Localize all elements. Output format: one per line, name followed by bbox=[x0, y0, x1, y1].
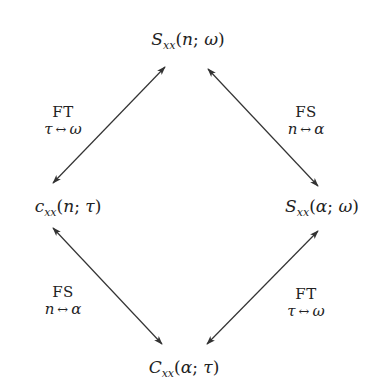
edge-top-right-from: n bbox=[288, 120, 298, 138]
double-arrow-icon: ↔ bbox=[296, 304, 313, 319]
edge-label-top-left: FT τ↔ω bbox=[44, 104, 81, 138]
node-left-symbol: c bbox=[35, 196, 45, 216]
diagram-canvas: Sxx(n; ω) cxx(n; τ) Sxx(α; ω) Cxx(α; τ) … bbox=[0, 0, 385, 392]
node-right-sep: ; bbox=[327, 196, 333, 216]
node-bottom-sep: ; bbox=[192, 357, 198, 377]
node-top-subscript: xx bbox=[163, 39, 175, 52]
node-top-arg2: ω bbox=[204, 29, 218, 49]
edge-bottom-right-to: ω bbox=[312, 302, 324, 320]
node-bottom-subscript: xx bbox=[162, 367, 174, 380]
node-top-symbol: S bbox=[151, 29, 163, 49]
node-left-arg1: n bbox=[63, 196, 74, 216]
edge-bottom-left-to: α bbox=[71, 300, 81, 318]
node-right: Sxx(α; ω) bbox=[285, 196, 359, 223]
node-top-sep: ; bbox=[193, 29, 199, 49]
edge-bottom-left-op: FS bbox=[45, 284, 82, 301]
node-left-arg2: τ bbox=[85, 196, 94, 216]
node-bottom-arg1: α bbox=[181, 357, 192, 377]
node-left-subscript: xx bbox=[44, 206, 56, 219]
edge-top-left-to: ω bbox=[69, 120, 81, 138]
node-right-arg1: α bbox=[316, 196, 327, 216]
edge-label-bottom-left: FS n↔α bbox=[45, 284, 82, 318]
node-right-arg2: ω bbox=[338, 196, 352, 216]
double-arrow-icon: ↔ bbox=[54, 302, 71, 317]
node-right-subscript: xx bbox=[297, 206, 309, 219]
edge-top-left-op: FT bbox=[44, 104, 81, 121]
node-top-arg1: n bbox=[182, 29, 193, 49]
double-arrow-icon: ↔ bbox=[297, 122, 314, 137]
node-top: Sxx(n; ω) bbox=[151, 29, 224, 56]
double-arrow-icon: ↔ bbox=[53, 122, 70, 137]
node-right-symbol: S bbox=[285, 196, 297, 216]
node-left-sep: ; bbox=[74, 196, 80, 216]
edge-bottom-left-from: n bbox=[45, 300, 55, 318]
edge-bottom-right-op: FT bbox=[287, 286, 324, 303]
node-bottom-arg2: τ bbox=[203, 357, 212, 377]
edge-top-right-to: α bbox=[314, 120, 324, 138]
node-left: cxx(n; τ) bbox=[35, 196, 102, 223]
node-bottom-symbol: C bbox=[149, 357, 162, 377]
edge-top-right-op: FS bbox=[288, 104, 325, 121]
edge-label-bottom-right: FT τ↔ω bbox=[287, 286, 324, 320]
node-bottom: Cxx(α; τ) bbox=[149, 357, 220, 384]
edge-label-top-right: FS n↔α bbox=[288, 104, 325, 138]
